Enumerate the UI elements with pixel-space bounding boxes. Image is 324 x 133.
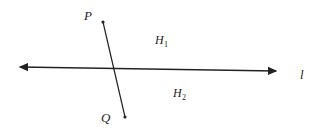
line-l <box>20 67 276 71</box>
label-h2-subscript: 2 <box>182 93 186 102</box>
label-l: l <box>300 67 304 82</box>
point-q <box>123 115 126 118</box>
label-p: P <box>83 8 92 23</box>
point-p <box>101 20 104 23</box>
geometry-diagram: P Q l H 1 H 2 <box>0 0 324 133</box>
label-h1-subscript: 1 <box>164 40 168 49</box>
diagram-canvas: P Q l H 1 H 2 <box>0 0 324 133</box>
label-q: Q <box>101 110 111 125</box>
segment-pq <box>103 22 125 117</box>
